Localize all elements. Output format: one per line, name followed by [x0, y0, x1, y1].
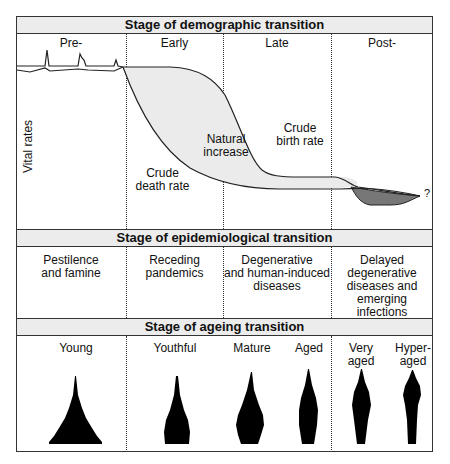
pyramid-hyper-aged — [403, 370, 421, 444]
pyramid-youthful — [164, 376, 190, 444]
epi-stage-3: Degenerative and human-induced diseases — [223, 254, 331, 293]
birth-rate-label: Crude birth rate — [270, 122, 330, 148]
pre-rates-line — [17, 50, 123, 67]
death-rate-label: Crude death rate — [130, 167, 195, 193]
stage-post: Post- — [331, 37, 433, 50]
pyramid-aged — [299, 369, 318, 444]
pyramid-very-aged — [352, 369, 371, 444]
y-axis-label: Vital rates — [22, 107, 35, 187]
epi-2-line2: pandemics — [126, 267, 223, 280]
epi-stage-4: Delayed degenerative diseases and emergi… — [331, 254, 433, 319]
increase-label-line2: increase — [196, 146, 256, 159]
age-youthful: Youthful — [145, 342, 205, 355]
epi-stage-1: Pestilence and famine — [16, 254, 126, 280]
age-mature: Mature — [222, 342, 282, 355]
age-young: Young — [46, 342, 106, 355]
stage-pre: Pre- — [16, 37, 126, 50]
natural-increase-label: Natural increase — [196, 133, 256, 159]
stage-late: Late — [223, 37, 331, 50]
very-aged-line2: aged — [331, 355, 391, 368]
pyramids — [49, 369, 421, 444]
epi-stage-2: Receding pandemics — [126, 254, 223, 280]
pyramid-mature — [236, 372, 264, 444]
death-label-line2: death rate — [130, 180, 195, 193]
epi-1-line2: and famine — [16, 267, 126, 280]
birth-label-line2: birth rate — [270, 135, 330, 148]
demographic-curves — [0, 0, 450, 464]
age-aged: Aged — [279, 342, 339, 355]
epi-3-line3: diseases — [223, 280, 331, 293]
stage-early: Early — [126, 37, 223, 50]
age-hyper-aged: Hyper- aged — [383, 342, 443, 368]
hyper-aged-line2: aged — [383, 355, 443, 368]
epi-4-line4: emerging infections — [331, 293, 433, 319]
question-mark: ? — [421, 187, 433, 200]
pre-death-line — [17, 67, 123, 72]
age-very-aged: Very aged — [331, 342, 391, 368]
pyramid-young — [49, 376, 102, 444]
